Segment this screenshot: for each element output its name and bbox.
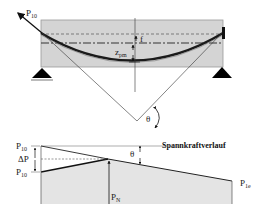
force-p10-label: P10	[26, 8, 37, 19]
support-right	[212, 67, 232, 78]
angle-theta-arc	[155, 109, 159, 128]
prestress-diagram: f zpm P10 θ Spannkraftverlauf P10 ΔP P10…	[0, 0, 262, 204]
support-left	[31, 68, 53, 80]
p10-label: P10	[16, 141, 27, 152]
angle-theta-label: θ	[146, 114, 150, 124]
chart-title: Spannkraftverlauf	[162, 141, 226, 150]
eccentricity-f-label: f	[140, 34, 143, 44]
p1e-label: P1e	[240, 178, 251, 189]
theta-label-bottom: θ	[130, 149, 134, 159]
delta-p-label: ΔP	[18, 154, 29, 164]
anchor-plate	[222, 27, 225, 39]
p10-prime-label: P10	[16, 167, 27, 178]
